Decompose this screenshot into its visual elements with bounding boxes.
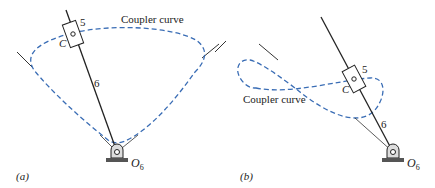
ground-pivot-o6-b [382,144,404,162]
coupler-curve [31,28,205,143]
ground-pivot-o6 [106,144,128,162]
link-label-b: 6 [381,118,387,130]
curve-label-b: Coupler curve [243,93,306,105]
coupler-point-c-b [352,77,356,81]
coupler-point-c [71,32,75,36]
panel-label-a: (a) [16,170,29,183]
ground-hatch-b [382,158,404,162]
link-label-a: 6 [94,77,100,89]
slider-label-b: 5 [362,63,368,75]
limit-line-upper [259,44,278,60]
panel-b: Coupler curve 5 C 6 O6 (b) [215,17,420,183]
panel-a: Coupler curve 5 C 6 O6 (a) [16,10,219,183]
pivot-label-b: O6 [407,156,420,172]
coupler-curve-diagram: Coupler curve 5 C 6 O6 (a) Coupler curve… [0,0,435,188]
point-label-a: C [59,37,67,49]
point-label-b: C [342,83,350,95]
pivot-label-a: O6 [131,156,144,172]
panel-label-b: (b) [240,170,253,183]
ground-hatch [106,158,128,162]
slider-label-a: 5 [80,16,86,28]
curve-label-a: Coupler curve [121,13,184,25]
